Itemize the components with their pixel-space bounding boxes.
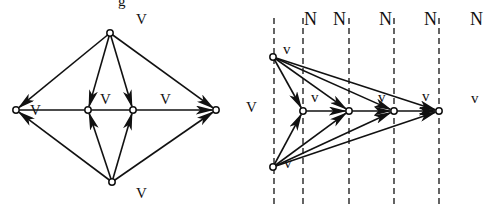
left-node-L bbox=[13, 107, 19, 113]
layer-n-label: N bbox=[470, 9, 483, 29]
layer-n-label: N bbox=[333, 9, 346, 29]
right-edge-A-to-P3 bbox=[273, 57, 390, 109]
right-node-P3 bbox=[391, 108, 397, 114]
left-node-R bbox=[213, 107, 219, 113]
left-graph-diagram: VVVVV bbox=[13, 11, 219, 201]
left-node-M2 bbox=[130, 107, 136, 113]
left-edge-T-to-M2 bbox=[110, 33, 132, 106]
vertex-set-label: V bbox=[160, 91, 171, 107]
left-node-T bbox=[107, 30, 113, 36]
vertex-set-label: v bbox=[284, 155, 292, 171]
left-edge-B-to-M1 bbox=[89, 114, 112, 182]
left-edge-B-to-M2 bbox=[112, 114, 132, 182]
layer-n-label: N bbox=[424, 9, 437, 29]
vertex-set-label: v bbox=[422, 88, 430, 104]
vertex-set-label: V bbox=[136, 185, 147, 201]
right-layered-graph-diagram: NNNNNVvvvvvv bbox=[246, 9, 483, 208]
vertex-set-label: V bbox=[246, 99, 257, 115]
vertex-set-label: v bbox=[471, 90, 479, 106]
right-node-P1 bbox=[300, 108, 306, 114]
vertex-set-label: V bbox=[100, 91, 111, 107]
left-edge-B-to-L bbox=[19, 112, 112, 182]
vertex-set-label: v bbox=[283, 41, 291, 57]
layer-n-label: N bbox=[379, 9, 392, 29]
right-node-P4 bbox=[436, 108, 442, 114]
vertex-set-label: V bbox=[136, 11, 147, 27]
layer-n-label: N bbox=[304, 9, 317, 29]
top-cutoff-glyph: g bbox=[118, 0, 126, 9]
right-edge-A-to-P2 bbox=[273, 57, 346, 109]
vertex-set-label: V bbox=[30, 102, 41, 118]
left-edge-B-to-R bbox=[112, 112, 213, 182]
left-node-B bbox=[109, 179, 115, 185]
vertex-set-label: v bbox=[378, 89, 386, 105]
right-node-P2 bbox=[346, 108, 352, 114]
left-node-M1 bbox=[85, 107, 91, 113]
diagram-canvas: VVVVV NNNNNVvvvvvv g bbox=[0, 0, 491, 215]
left-edge-T-to-L bbox=[19, 33, 110, 107]
right-node-A bbox=[270, 54, 276, 60]
right-node-C bbox=[270, 164, 276, 170]
vertex-set-label: v bbox=[311, 89, 319, 105]
